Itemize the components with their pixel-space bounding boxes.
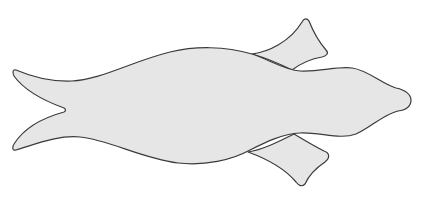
body [13, 48, 411, 164]
figure-canvas [0, 0, 422, 200]
platypus-silhouette-icon [0, 0, 422, 200]
